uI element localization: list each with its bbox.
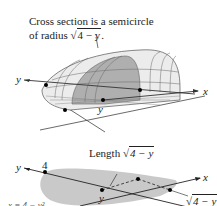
side-length-label: √4 − y — [186, 195, 217, 206]
sqrt-side: √4 − y — [186, 195, 217, 206]
length-label: Length √4 − y — [89, 147, 154, 159]
top-point-y-label: y — [98, 103, 103, 115]
sqrt-radius: √4 − y — [71, 29, 102, 41]
bottom-x-axis-label: x — [203, 171, 208, 183]
side-radical: 4 − y — [192, 194, 217, 206]
top-x-axis-label: x — [203, 85, 208, 97]
length-radical: 4 − y — [129, 146, 154, 159]
sqrt-length: √4 − y — [123, 147, 154, 159]
radical-content: 4 − y — [77, 28, 102, 41]
bottom-y-axis-label: y — [16, 161, 21, 173]
top-y-axis-label: y — [16, 73, 21, 85]
tick-4-label: 4 — [42, 159, 48, 171]
bottom-point-y-label: y — [99, 192, 104, 204]
curve-equation-label: x = 4 − y² — [8, 199, 44, 206]
length-prefix: Length — [89, 147, 123, 159]
caption-line-2: of radius √4 − y. — [29, 29, 104, 41]
caption-suffix: . — [101, 29, 104, 41]
caption-line-1: Cross section is a semicircle — [29, 15, 154, 27]
caption-prefix: of radius — [29, 29, 71, 41]
